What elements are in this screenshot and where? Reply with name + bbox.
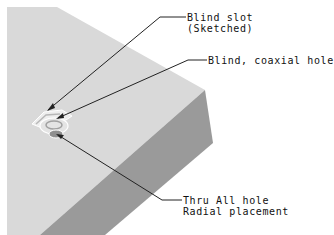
callout-thru-all-hole-line1: Thru All hole	[183, 195, 289, 206]
callout-blind-slot-line1: Blind slot	[187, 12, 253, 23]
callout-blind-slot-line2: (Sketched)	[187, 23, 253, 34]
callout-thru-all-hole: Thru All hole Radial placement	[183, 195, 289, 217]
callout-blind-coaxial-hole-line1: Blind, coaxial hole	[208, 55, 334, 66]
callout-blind-coaxial-hole: Blind, coaxial hole	[208, 55, 334, 66]
callout-blind-slot: Blind slot (Sketched)	[187, 12, 253, 34]
callout-thru-all-hole-line2: Radial placement	[183, 206, 289, 217]
